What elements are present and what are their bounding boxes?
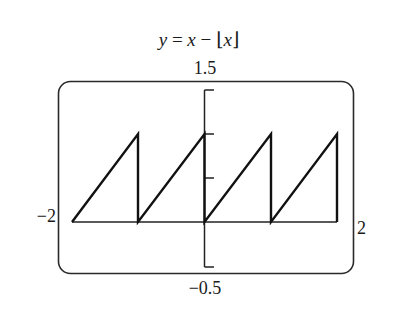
plot-area xyxy=(0,0,398,316)
sawtooth-curve xyxy=(72,134,337,222)
